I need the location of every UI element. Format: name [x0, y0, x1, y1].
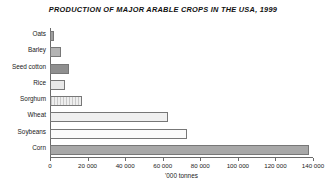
x-tick: [50, 158, 51, 161]
x-tick: [125, 158, 126, 161]
bar-wheat: [50, 112, 168, 122]
x-tick-label: 0: [48, 162, 51, 169]
bar-barley: [50, 47, 61, 57]
x-tick: [200, 158, 201, 161]
x-tick-label: 100 000: [227, 162, 249, 169]
bar-row: Wheat: [50, 109, 313, 125]
x-tick-label: 40 000: [116, 162, 135, 169]
plot-area: OatsBarleySeed cottonRiceSorghumWheatSoy…: [50, 28, 313, 158]
bar-row: Corn: [50, 142, 313, 158]
category-label: Sorghum: [20, 95, 46, 102]
x-tick: [275, 158, 276, 161]
x-tick-label: 140 000: [302, 162, 324, 169]
category-label: Barley: [28, 46, 46, 53]
x-tick: [238, 158, 239, 161]
x-tick-label: 60 000: [153, 162, 172, 169]
bar-oats: [50, 31, 54, 41]
x-tick: [313, 158, 314, 161]
bar-row: Oats: [50, 28, 313, 44]
bar-row: Soybeans: [50, 126, 313, 142]
bar-corn: [50, 145, 309, 155]
x-tick-label: 80 000: [191, 162, 210, 169]
bar-rice: [50, 80, 65, 90]
chart-container: PRODUCTION OF MAJOR ARABLE CROPS IN THE …: [0, 0, 326, 194]
x-tick: [88, 158, 89, 161]
category-label: Corn: [32, 144, 46, 151]
bar-sorghum: [50, 96, 82, 106]
category-label: Seed cotton: [12, 63, 46, 70]
category-label: Wheat: [28, 111, 46, 118]
bar-row: Rice: [50, 77, 313, 93]
bar-row: Barley: [50, 44, 313, 60]
x-tick-label: 120 000: [264, 162, 286, 169]
category-label: Rice: [33, 79, 46, 86]
x-axis-title: '000 tonnes: [50, 172, 313, 179]
bar-seed-cotton: [50, 64, 69, 74]
bar-soybeans: [50, 129, 187, 139]
chart-title: PRODUCTION OF MAJOR ARABLE CROPS IN THE …: [0, 5, 326, 14]
bar-row: Seed cotton: [50, 61, 313, 77]
x-tick: [163, 158, 164, 161]
category-label: Oats: [33, 30, 47, 37]
category-label: Soybeans: [18, 128, 46, 135]
bar-row: Sorghum: [50, 93, 313, 109]
x-tick-label: 20 000: [78, 162, 97, 169]
